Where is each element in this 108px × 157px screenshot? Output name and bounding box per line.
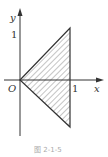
- x-axis-label: x: [94, 83, 100, 94]
- origin-label: O: [8, 83, 16, 94]
- coordinate-diagram: y 1 O 1 x 图 2-1-5: [0, 0, 108, 157]
- y-axis-arrow-icon: [18, 8, 23, 16]
- y-axis-label: y: [9, 12, 16, 23]
- x-axis-arrow-icon: [96, 78, 104, 83]
- figure-caption: 图 2-1-5: [34, 146, 62, 154]
- y-tick-label: 1: [11, 29, 17, 40]
- x-tick-label: 1: [72, 83, 78, 94]
- shaded-triangle: [20, 28, 70, 127]
